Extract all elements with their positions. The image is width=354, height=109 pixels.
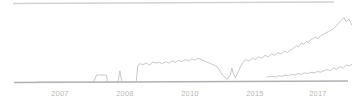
x-tick-label-2017: 2017	[309, 90, 327, 98]
top-divider-rule	[13, 2, 334, 4]
series-line-2	[267, 65, 352, 78]
x-tick-label-2007: 2007	[51, 90, 69, 98]
x-tick-label-2015: 2015	[246, 90, 264, 98]
trend-chart: 2007 2008 2010 2015 2017	[0, 0, 354, 109]
series-line-1	[37, 18, 352, 82]
x-tick-label-2010: 2010	[181, 90, 199, 98]
x-tick-label-2008: 2008	[116, 90, 134, 98]
